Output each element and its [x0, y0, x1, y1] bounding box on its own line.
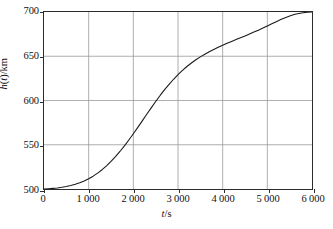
y-axis-paren-open: (: [0, 81, 9, 85]
y-axis-argument-symbol: t: [0, 78, 9, 81]
y-axis-tick-label: 650: [24, 51, 39, 62]
plot-area: [43, 11, 313, 190]
y-axis-title-text: h(t)/km: [0, 58, 10, 90]
y-axis-unit: km: [0, 58, 9, 71]
x-axis-tick-label: 3 000: [166, 194, 189, 205]
y-axis-title: h(t)/km: [0, 26, 10, 58]
x-axis-unit: s: [167, 208, 171, 219]
y-axis-tick-mark: [40, 12, 44, 13]
y-axis-tick-label: 600: [24, 95, 39, 106]
y-axis-paren-close: ): [0, 74, 9, 78]
y-axis-separator: /: [0, 71, 9, 74]
x-axis-tick-label: 0: [40, 194, 45, 205]
chart-figure: 500550600650700 h(t)/km 01 0002 0003 000…: [0, 0, 333, 229]
y-axis-tick-label: 700: [24, 6, 39, 17]
y-axis-tick-mark: [40, 102, 44, 103]
x-axis-tick-label: 1 000: [76, 194, 99, 205]
x-axis-tick-label: 5 000: [256, 194, 279, 205]
x-axis-title: t/s: [0, 209, 333, 220]
y-axis-tick-label: 550: [24, 140, 39, 151]
y-axis-tick-mark: [40, 57, 44, 58]
y-axis-function-symbol: h: [0, 84, 9, 89]
x-axis-tick-label: 4 000: [211, 194, 234, 205]
data-curve-layer: [44, 12, 312, 189]
x-axis-tick-label: 6 000: [301, 194, 324, 205]
data-curve: [44, 12, 312, 189]
y-axis-tick-mark: [40, 146, 44, 147]
x-axis-tick-label: 2 000: [121, 194, 144, 205]
